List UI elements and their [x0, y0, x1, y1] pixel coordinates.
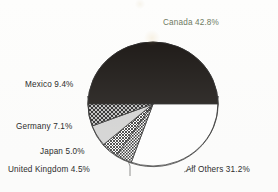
- pie-label-canada: Canada 42.8%: [163, 19, 219, 27]
- pie-label-mexico: Mexico 9.4%: [25, 81, 74, 89]
- pie-chart-graphic: [0, 0, 278, 192]
- pie-chart: Canada 42.8% Mexico 9.4% Germany 7.1% Ja…: [0, 0, 278, 192]
- pie-label-japan: Japan 5.0%: [40, 148, 85, 156]
- pie-label-all-others: All Others 31.2%: [186, 166, 250, 174]
- pie-slice-canada[interactable]: [88, 42, 218, 104]
- pie-label-united-kingdom: United Kingdom 4.5%: [8, 166, 90, 174]
- pie-label-germany: Germany 7.1%: [16, 123, 72, 131]
- pie-slices: [88, 42, 218, 167]
- leader-line-united-kingdom: [128, 161, 130, 176]
